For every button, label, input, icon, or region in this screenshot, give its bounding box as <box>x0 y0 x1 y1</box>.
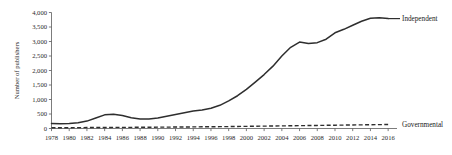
x-tick-label: 2002 <box>258 134 271 141</box>
x-tick-label: 1978 <box>45 134 59 141</box>
y-tick-label: 4,000 <box>32 9 48 16</box>
y-tick-label: 1,500 <box>32 81 48 88</box>
y-tick-label: 1,000 <box>32 96 48 103</box>
x-tick-label: 1982 <box>80 134 93 141</box>
x-tick-label: 2014 <box>364 134 378 141</box>
series-line-governmental <box>52 125 389 128</box>
chart-canvas: 05001,0001,5002,0002,5003,0003,5004,0001… <box>0 0 452 155</box>
y-tick-label: 500 <box>37 110 48 117</box>
series-label-independent: Independent <box>402 15 438 23</box>
x-tick-label: 2004 <box>275 134 289 141</box>
x-tick-label: 1984 <box>98 134 112 141</box>
y-tick-label: 3,500 <box>32 23 48 30</box>
x-tick-label: 1996 <box>204 134 218 141</box>
x-tick-label: 2012 <box>346 134 359 141</box>
x-tick-label: 1988 <box>133 134 147 141</box>
x-tick-label: 2016 <box>382 134 396 141</box>
x-tick-label: 1990 <box>151 134 165 141</box>
publishers-line-chart: 05001,0001,5002,0002,5003,0003,5004,0001… <box>0 0 452 155</box>
x-tick-label: 1998 <box>222 134 236 141</box>
x-tick-label: 2008 <box>311 134 325 141</box>
series-label-governmental: Governmental <box>402 121 443 129</box>
y-tick-label: 0 <box>44 125 48 132</box>
x-tick-label: 1980 <box>63 134 77 141</box>
x-tick-label: 2006 <box>293 134 307 141</box>
y-tick-label: 3,000 <box>32 38 48 45</box>
series-line-independent <box>52 18 389 124</box>
x-tick-label: 2010 <box>328 134 342 141</box>
y-axis-title: Number of publishers <box>13 41 20 99</box>
y-tick-label: 2,500 <box>32 52 48 59</box>
x-tick-label: 1992 <box>169 134 182 141</box>
x-tick-label: 1994 <box>187 134 201 141</box>
x-tick-label: 2000 <box>240 134 254 141</box>
y-tick-label: 2,000 <box>32 67 48 74</box>
x-tick-label: 1986 <box>116 134 130 141</box>
